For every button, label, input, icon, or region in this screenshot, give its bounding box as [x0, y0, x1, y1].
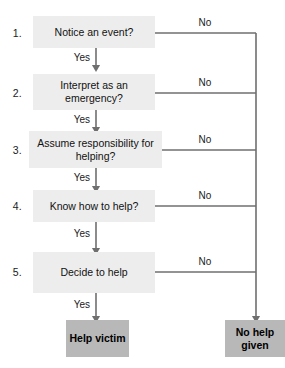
flowchart-connectors: [0, 0, 285, 368]
step-number-3: 3.: [0, 144, 22, 156]
edge-label-yes-5: Yes: [58, 299, 90, 310]
outcome-box-no-help-given[interactable]: No help given: [225, 320, 285, 357]
step-number-4: 4.: [0, 200, 22, 212]
flowchart-canvas: 1. 2. 3. 4. 5. Notice an event? Interpre…: [0, 0, 285, 368]
step-box-know-how-to-help[interactable]: Know how to help?: [33, 190, 155, 222]
edge-label-yes-2: Yes: [58, 114, 90, 125]
step-number-2: 2.: [0, 87, 22, 99]
step-box-interpret-emergency[interactable]: Interpret as an emergency?: [33, 74, 155, 110]
step-number-1: 1.: [0, 27, 22, 39]
step-box-assume-responsibility[interactable]: Assume responsibility for helping?: [29, 131, 162, 168]
edge-label-no-4: No: [188, 190, 222, 201]
step-box-notice-event[interactable]: Notice an event?: [33, 16, 155, 48]
edge-label-yes-4: Yes: [58, 228, 90, 239]
edge-label-no-5: No: [188, 256, 222, 267]
edge-label-yes-3: Yes: [58, 172, 90, 183]
step-number-5: 5.: [0, 266, 22, 278]
edge-label-no-3: No: [188, 134, 222, 145]
edge-label-no-1: No: [188, 17, 222, 28]
edge-label-no-2: No: [188, 77, 222, 88]
edge-label-yes-1: Yes: [58, 52, 90, 63]
step-box-decide-to-help[interactable]: Decide to help: [33, 252, 155, 293]
outcome-box-help-victim[interactable]: Help victim: [66, 320, 129, 357]
